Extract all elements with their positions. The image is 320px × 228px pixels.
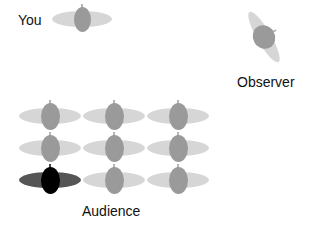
head-shape <box>41 167 60 194</box>
audience-label: Audience <box>82 203 140 219</box>
head-shape <box>105 103 124 130</box>
you-label: You <box>18 12 42 28</box>
head-shape <box>41 103 60 130</box>
head-shape <box>169 135 188 162</box>
head-shape <box>169 167 188 194</box>
observer-label: Observer <box>237 74 295 90</box>
head-shape <box>169 103 188 130</box>
head-shape <box>41 135 60 162</box>
head-shape <box>105 167 124 194</box>
head-shape <box>105 135 124 162</box>
head-shape <box>74 7 91 32</box>
